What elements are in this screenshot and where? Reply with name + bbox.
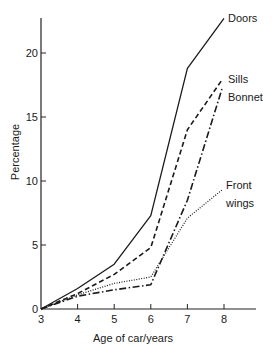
x-tick-label: 8 xyxy=(221,313,227,325)
series-line-doors xyxy=(41,18,224,309)
y-tick-label: 5 xyxy=(32,239,38,251)
series-label-bonnet: Bonnet xyxy=(228,91,263,103)
y-tick-label: 15 xyxy=(26,111,38,123)
series-label-front-wings: wings xyxy=(225,197,255,209)
y-tick-label: 10 xyxy=(26,175,38,187)
series-line-bonnet xyxy=(41,89,222,309)
x-tick-label: 4 xyxy=(75,313,81,325)
x-tick-label: 5 xyxy=(111,313,117,325)
line-chart: 34567805101520 DoorsSillsBonnetFrontwing… xyxy=(0,0,272,355)
series-line-front-wings xyxy=(41,190,222,309)
axes: 34567805101520 xyxy=(26,18,256,325)
series-label-front-wings: Front xyxy=(226,179,252,191)
x-axis-title: Age of car/years xyxy=(93,332,174,344)
x-tick-label: 3 xyxy=(38,313,44,325)
y-axis-title: Percentage xyxy=(9,124,21,180)
series-labels: DoorsSillsBonnetFrontwings xyxy=(225,12,263,209)
y-tick-label: 20 xyxy=(26,47,38,59)
series-label-doors: Doors xyxy=(228,12,258,24)
series-line-sills xyxy=(41,80,222,309)
x-tick-label: 6 xyxy=(148,313,154,325)
x-tick-label: 7 xyxy=(184,313,190,325)
series-lines xyxy=(41,18,224,309)
series-label-sills: Sills xyxy=(228,73,249,85)
y-tick-label: 0 xyxy=(32,303,38,315)
